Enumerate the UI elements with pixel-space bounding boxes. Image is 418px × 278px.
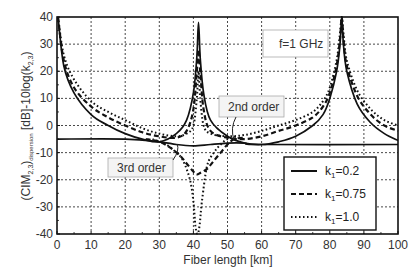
x-tick-label: 60 [255, 238, 269, 252]
x-tick-label: 0 [54, 238, 61, 252]
curve-dotted-second-order [58, 17, 398, 136]
x-tick-label: 50 [221, 238, 235, 252]
legend: k1=0.2 k1=0.75 k1=1.0 [284, 157, 376, 230]
annotation-frequency: f=1 GHz [263, 30, 328, 57]
x-tick-label: 80 [323, 238, 337, 252]
x-tick-label: 90 [357, 238, 371, 252]
x-tick-label: 70 [289, 238, 303, 252]
y-tick-label: 30 [40, 37, 54, 51]
y-tick-label: 0 [46, 119, 53, 133]
x-tick-label: 40 [187, 238, 201, 252]
x-tick-label: 100 [388, 238, 408, 252]
y-tick-label: -10 [36, 146, 54, 160]
x-axis-label: Fiber length [km] [183, 253, 272, 267]
y-tick-label: -40 [36, 227, 54, 241]
svg-text:k1=0.2: k1=0.2 [325, 164, 359, 180]
y-axis-label: (CIM2,3)dispersion [dB]-10log(k2,3) [19, 52, 34, 201]
annotation-2nd-order-text: 2nd order [228, 100, 279, 114]
annotation-frequency-text: f=1 GHz [279, 37, 323, 51]
svg-text:k1=1.0: k1=1.0 [325, 210, 359, 226]
x-tick-label: 10 [84, 238, 98, 252]
y-tick-label: 20 [40, 64, 54, 78]
curve-dotted-third-order [153, 136, 238, 234]
annotation-3rd-order-text: 3rd order [117, 161, 166, 175]
annotation-3rd-order: 3rd order [108, 144, 178, 177]
y-tick-label: 10 [40, 91, 54, 105]
x-tick-label: 30 [153, 238, 167, 252]
chart: 0102030405060708090100403020100-10-20-30… [0, 0, 418, 278]
y-tick-label: -20 [36, 173, 54, 187]
y-tick-label: -30 [36, 200, 54, 214]
curve-dashed-second-order [58, 17, 398, 139]
x-tick-label: 20 [119, 238, 133, 252]
y-tick-label: 40 [40, 10, 54, 24]
